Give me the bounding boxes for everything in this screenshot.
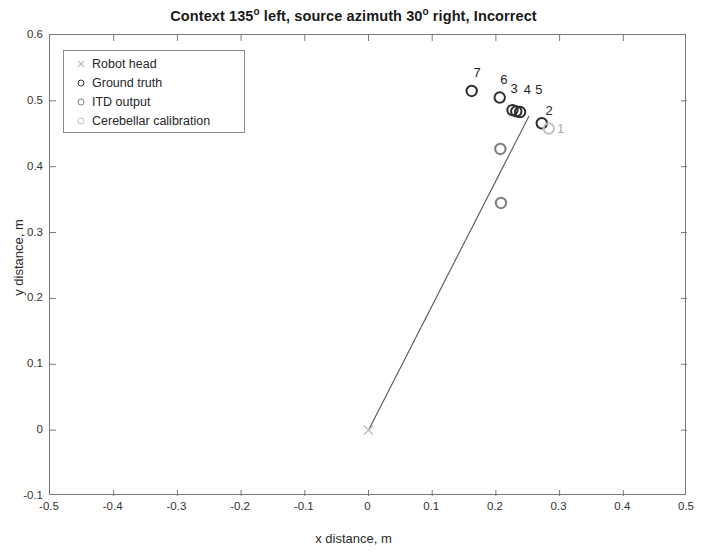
- legend-item-ground-truth[interactable]: Ground truth: [64, 73, 244, 92]
- legend-item-robot-head[interactable]: Robot head: [64, 54, 244, 73]
- y-tick-label: 0.6: [5, 28, 43, 40]
- x-tick-label: 0.1: [423, 500, 439, 512]
- circle-glyph: [78, 117, 85, 124]
- circle-marker-icon: [70, 73, 92, 92]
- y-tick-label: -0.1: [5, 489, 43, 501]
- data-point-marker: [495, 92, 505, 102]
- x-tick-label: 0.2: [487, 500, 503, 512]
- y-tick-label: 0: [5, 423, 43, 435]
- legend-item-label: Ground truth: [92, 76, 162, 90]
- robot-head-marker: [364, 426, 373, 435]
- data-point-index-label: 2: [545, 103, 552, 118]
- x-tick-label: -0.2: [230, 500, 250, 512]
- data-point-marker: [537, 118, 547, 128]
- y-tick-label: 0.1: [5, 357, 43, 369]
- data-point-index-label: 5: [535, 81, 542, 96]
- y-tick-label: 0.5: [5, 94, 43, 106]
- chart-title-segment-1: Context 135: [170, 8, 253, 24]
- data-point-marker: [544, 123, 554, 133]
- legend-item-label: Cerebellar calibration: [92, 114, 210, 128]
- x-axis-title: x distance, m: [0, 531, 707, 546]
- data-point-marker: [466, 86, 476, 96]
- chart-title-segment-2: left, source azimuth 30: [260, 8, 423, 24]
- data-point-marker: [496, 198, 506, 208]
- legend: Robot headGround truthITD outputCerebell…: [63, 50, 245, 133]
- figure-canvas: Context 135o left, source azimuth 30o ri…: [0, 0, 707, 556]
- data-point-index-label: 1: [557, 121, 564, 136]
- chart-title-segment-3: right, Incorrect: [429, 8, 537, 24]
- y-tick-label: 0.4: [5, 160, 43, 172]
- circle-marker-icon: [70, 111, 92, 130]
- x-marker-icon: [70, 54, 92, 73]
- x-tick-label: 0: [364, 500, 370, 512]
- legend-item-label: Robot head: [92, 57, 157, 71]
- x-tick-label: -0.4: [103, 500, 123, 512]
- x-tick-label: -0.1: [294, 500, 314, 512]
- x-tick-label: 0.4: [614, 500, 630, 512]
- legend-item-itd-output[interactable]: ITD output: [64, 92, 244, 111]
- x-tick-label: 0.3: [551, 500, 567, 512]
- legend-item-cerebellar-calibration[interactable]: Cerebellar calibration: [64, 111, 244, 130]
- chart-title: Context 135o left, source azimuth 30o ri…: [0, 6, 707, 24]
- gaze-ray-line: [369, 116, 530, 430]
- data-point-marker: [495, 144, 505, 154]
- x-tick-label: -0.5: [39, 500, 59, 512]
- x-tick-label: -0.3: [166, 500, 186, 512]
- data-point-index-label: 3: [510, 81, 517, 96]
- x-glyph: [77, 59, 86, 68]
- x-tick-label: 0.5: [678, 500, 694, 512]
- circle-marker-icon: [70, 92, 92, 111]
- data-point-index-label: 7: [473, 65, 480, 80]
- circle-glyph: [78, 98, 85, 105]
- circle-glyph: [78, 79, 85, 86]
- data-point-index-label: 6: [500, 71, 507, 86]
- y-axis-title: y distance, m: [11, 188, 26, 328]
- legend-item-label: ITD output: [92, 95, 150, 109]
- data-point-index-label: 4: [524, 81, 531, 96]
